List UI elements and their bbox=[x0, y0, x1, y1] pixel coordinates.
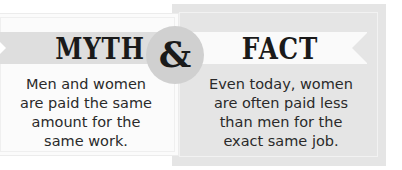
fact-line: exact same job. bbox=[200, 132, 362, 151]
myth-line: Men and women bbox=[0, 75, 172, 94]
fact-text: Even today, women are often paid less th… bbox=[200, 75, 362, 151]
myth-text: Men and women are paid the same amount f… bbox=[0, 75, 172, 151]
ampersand-icon: & bbox=[159, 36, 192, 72]
fact-line: Even today, women bbox=[200, 75, 362, 94]
fact-line: are often paid less bbox=[200, 94, 362, 113]
myth-line: amount for the bbox=[0, 113, 172, 132]
myth-line: same work. bbox=[0, 132, 172, 151]
myth-line: are paid the same bbox=[0, 94, 172, 113]
ribbon-notch bbox=[0, 32, 6, 64]
fact-title: FACT bbox=[214, 33, 345, 65]
fact-line: than men for the bbox=[200, 113, 362, 132]
ribbon-notch bbox=[352, 32, 368, 64]
